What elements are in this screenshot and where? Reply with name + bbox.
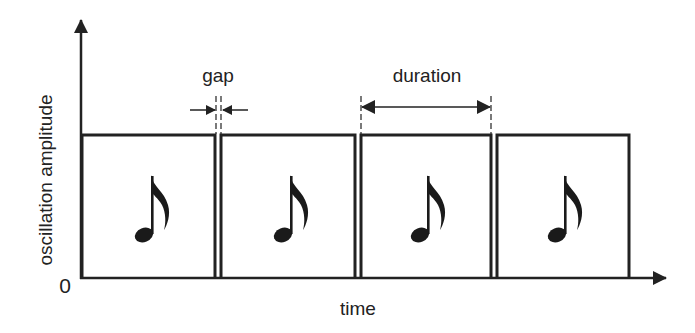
x-axis-label: time [340, 298, 376, 319]
music-note-icon [133, 175, 169, 245]
y-axis-label: oscillation amplitude [35, 94, 56, 265]
music-note-icon [409, 175, 445, 245]
music-note-icon [272, 175, 308, 245]
tone-block-2 [221, 135, 355, 278]
tone-block-1 [82, 135, 215, 278]
tone-block-3 [361, 135, 491, 278]
tone-sequence-diagram: gap duration oscillation amplitude time … [0, 0, 695, 333]
origin-label: 0 [59, 274, 71, 297]
music-note-icon [546, 175, 582, 245]
gap-label: gap [202, 65, 234, 86]
duration-annotation: duration [361, 65, 491, 134]
gap-annotation: gap [190, 65, 248, 134]
duration-label: duration [393, 65, 462, 86]
tone-block-4 [497, 135, 629, 278]
